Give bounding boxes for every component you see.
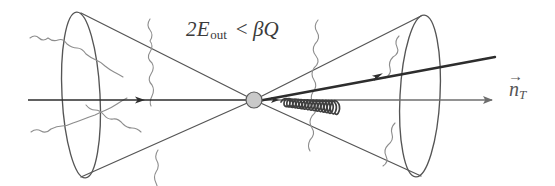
diagram-canvas: 2Eout<βQ →nT bbox=[0, 0, 555, 186]
cone-edge-right-lower bbox=[254, 100, 421, 176]
soft-radiation-wave-1 bbox=[30, 36, 123, 77]
constraint-q-symbol: Q bbox=[264, 17, 279, 41]
constraint-formula-label: 2Eout<βQ bbox=[186, 17, 279, 43]
soft-radiation-wave-7 bbox=[385, 36, 399, 78]
gluon-coil-path bbox=[281, 99, 339, 115]
left-cone-base-ellipse bbox=[58, 11, 105, 179]
cone-edge-left-lower bbox=[81, 100, 254, 177]
soft-radiation-wave-4 bbox=[86, 105, 141, 132]
axis-vector-symbol-group: →n bbox=[509, 78, 519, 101]
constraint-relation: < bbox=[236, 17, 248, 41]
soft-radiation-group bbox=[30, 19, 399, 186]
gluon-coil bbox=[281, 99, 339, 115]
soft-radiation-wave-2 bbox=[31, 98, 127, 132]
soft-radiation-wave-6 bbox=[155, 150, 159, 186]
interaction-vertex bbox=[246, 92, 262, 108]
soft-radiation-wave-5 bbox=[309, 20, 319, 151]
constraint-coefficient: 2 bbox=[186, 17, 197, 41]
constraint-energy-symbol: E bbox=[197, 17, 210, 41]
constraint-beta-symbol: β bbox=[253, 17, 264, 41]
quark-jet-arrow bbox=[258, 57, 495, 101]
right-cone-base-ellipse bbox=[396, 14, 444, 178]
vector-arrow-accent: → bbox=[508, 69, 523, 84]
soft-radiation-wave-3 bbox=[148, 19, 154, 106]
axis-subscript: T bbox=[519, 87, 526, 102]
thrust-axis-label: →nT bbox=[509, 78, 526, 103]
constraint-energy-subscript: out bbox=[210, 27, 227, 42]
